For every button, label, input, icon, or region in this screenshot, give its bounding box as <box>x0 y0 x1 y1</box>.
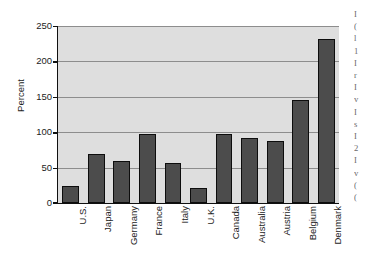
bar <box>139 134 156 203</box>
bar <box>216 134 233 203</box>
bar <box>88 154 105 203</box>
y-tick-label: 250 <box>26 21 52 31</box>
bar <box>241 138 258 203</box>
x-tick-label: Italy <box>176 206 187 223</box>
y-axis-tick-labels: 0 50 100 150 200 250 <box>24 0 52 271</box>
x-tick-label: Canada <box>227 206 238 239</box>
y-tick-label: 50 <box>26 163 52 173</box>
bar <box>113 161 130 203</box>
y-tick-label: 200 <box>26 57 52 67</box>
x-tick-label: U.S. <box>74 206 85 224</box>
edge-text-line: I <box>354 154 368 166</box>
bar <box>267 141 284 203</box>
x-tick-label: France <box>150 206 161 236</box>
x-tick-label: Austria <box>278 206 289 236</box>
bar-series <box>58 26 339 203</box>
edge-text-line: v <box>354 93 368 105</box>
bar <box>292 100 309 203</box>
plot-area <box>57 26 339 204</box>
y-tick-label: 100 <box>26 127 52 137</box>
bar <box>190 188 207 203</box>
bar <box>165 163 182 203</box>
y-tick-label: 150 <box>26 92 52 102</box>
x-tick-label: Japan <box>99 206 110 232</box>
edge-text-line: s <box>354 118 368 130</box>
edge-text-line: ( <box>354 20 368 32</box>
edge-text-line: I <box>354 130 368 142</box>
edge-text-line: I <box>354 81 368 93</box>
edge-text-line: ( <box>354 191 368 203</box>
edge-text-line: r <box>354 69 368 81</box>
edge-text-line: I <box>354 8 368 20</box>
edge-text-line: 2 <box>354 142 368 154</box>
x-axis-tick-labels: U.S.JapanGermanyFranceItalyU.K.CanadaAus… <box>57 206 338 271</box>
adjacent-column-text-sliver: I(l1IrIvIsI2Iv(( <box>354 8 368 263</box>
x-tick-label: Australia <box>253 206 264 243</box>
edge-text-line: v <box>354 167 368 179</box>
y-tick-label: 0 <box>26 198 52 208</box>
edge-text-line: ( <box>354 179 368 191</box>
edge-text-line: I <box>354 106 368 118</box>
edge-text-line: l <box>354 32 368 44</box>
bar <box>318 39 335 203</box>
x-tick-label: U.K. <box>202 206 213 224</box>
edge-text-line: 1 <box>354 45 368 57</box>
bar <box>62 186 79 203</box>
x-tick-label: Denmark <box>329 206 340 245</box>
edge-text-line: I <box>354 57 368 69</box>
x-tick-label: Belgium <box>304 206 315 240</box>
x-tick-label: Germany <box>125 206 136 245</box>
bar-chart-figure: Percent 0 50 100 150 200 250 U.S.JapanGe… <box>0 0 368 271</box>
